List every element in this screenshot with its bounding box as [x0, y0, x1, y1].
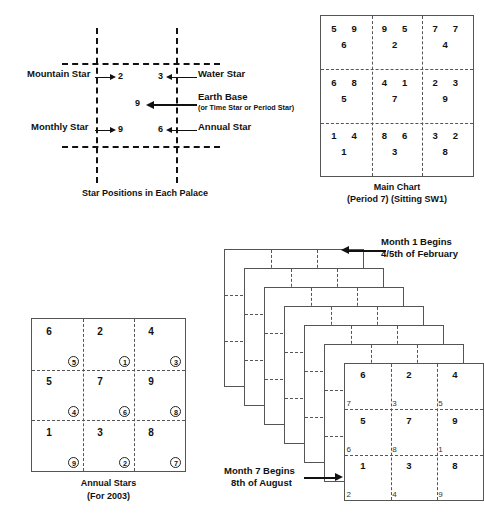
month7-cell: 7 8	[391, 409, 437, 454]
month7-arrowhead	[335, 473, 343, 481]
month7-cell: 3 4	[391, 455, 437, 500]
monthly-star-arrowhead	[110, 127, 116, 133]
month7-big-digit: 3	[406, 460, 411, 471]
month7-cell: 2 3	[391, 364, 437, 409]
annual-chart-caption-line1: Annual Stars	[31, 478, 186, 490]
water-star-digit: 1	[402, 77, 407, 88]
month7-cell: 9 1	[437, 409, 483, 454]
annual-chart-cell: 3 2	[83, 420, 134, 471]
palace-diagram-caption: Star Positions in Each Palace	[0, 188, 290, 200]
month7-small-digit: 1	[438, 445, 442, 454]
month7-big-digit: 8	[452, 460, 457, 471]
month1-arrowhead	[341, 246, 349, 254]
mountain-star-digit: 3	[432, 130, 437, 141]
month7-note-line1: Month 7 Begins	[224, 466, 295, 477]
annual-circled-digit: 3	[170, 356, 181, 367]
month7-cell: 1 2	[345, 455, 391, 500]
month7-big-digit: 4	[452, 369, 457, 380]
annual-circled-digit: 8	[170, 406, 181, 417]
annual-main-digit: 9	[148, 376, 154, 387]
annual-main-digit: 3	[97, 427, 103, 438]
month7-big-digit: 2	[406, 369, 411, 380]
annual-circled-digit: 7	[170, 457, 181, 468]
mountain-star-digit: 7	[432, 23, 437, 34]
base-star-digit: 3	[392, 146, 397, 157]
month7-small-digit: 9	[438, 490, 442, 499]
month7-small-digit: 3	[392, 399, 396, 408]
main-chart-cell: 3 2 8	[422, 123, 473, 176]
mountain-star-arrowhead	[110, 74, 116, 80]
annual-chart-cell: 1 9	[32, 420, 83, 471]
annual-circled-digit: 9	[68, 457, 79, 468]
month7-small-digit: 8	[392, 445, 396, 454]
annual-main-digit: 8	[148, 427, 154, 438]
month7-small-digit: 6	[346, 445, 350, 454]
earth-base-sublabel: (or Time Star or Period Star)	[198, 104, 294, 112]
base-star-digit: 6	[341, 39, 346, 50]
annual-main-digit: 2	[97, 326, 103, 337]
month7-small-digit: 5	[438, 399, 442, 408]
mountain-star-label: Mountain Star	[27, 69, 90, 80]
annual-circled-digit: 5	[68, 356, 79, 367]
base-star-digit: 9	[443, 93, 448, 104]
annual-chart-cell: 6 5	[32, 319, 83, 370]
base-star-digit: 5	[341, 93, 346, 104]
annual-star-arrow-line	[171, 130, 197, 131]
water-star-arrow-line	[171, 77, 197, 78]
base-star-digit: 7	[392, 93, 397, 104]
main-chart-cell: 6 8 5	[321, 69, 372, 122]
month1-note-line1: Month 1 Begins	[381, 237, 452, 248]
mountain-star-digit: 8	[382, 130, 387, 141]
annual-circled-digit: 1	[119, 356, 130, 367]
main-chart-cell: 4 1 7	[372, 69, 423, 122]
base-star-digit: 8	[443, 146, 448, 157]
water-star-digit: 3	[453, 77, 458, 88]
month1-note-line2: 4/5th of February	[381, 249, 458, 260]
month7-small-digit: 4	[392, 490, 396, 499]
mountain-star-digit: 1	[331, 130, 336, 141]
month7-cell: 5 6	[345, 409, 391, 454]
annual-chart-cell: 7 6	[83, 370, 134, 421]
water-star-digit: 4	[351, 130, 356, 141]
palace-grid-vline-left	[96, 28, 98, 183]
month7-cell: 8 9	[437, 455, 483, 500]
month7-arrow-line	[304, 477, 337, 479]
water-star-digit: 6	[402, 130, 407, 141]
annual-main-digit: 7	[97, 376, 103, 387]
main-chart-cell: 9 5 2	[372, 16, 423, 69]
annual-main-digit: 1	[46, 427, 52, 438]
annual-main-digit: 6	[46, 326, 52, 337]
annual-main-digit: 4	[148, 326, 154, 337]
main-chart-cell: 8 6 3	[372, 123, 423, 176]
annual-main-digit: 5	[46, 376, 52, 387]
month-sheet-7-front: 6 7 2 3 4 5 5 6 7 8 9 1 1 2 3 4	[344, 363, 484, 501]
main-chart-cell: 5 9 6	[321, 16, 372, 69]
palace-diagram: Mountain Star 2 3 Water Star 9 Earth Bas…	[0, 0, 300, 215]
annual-chart-caption-line2: (For 2003)	[31, 491, 186, 503]
earth-base-value: 9	[135, 98, 140, 108]
month7-small-digit: 2	[346, 490, 350, 499]
mountain-star-digit: 6	[331, 77, 336, 88]
month7-big-digit: 5	[360, 415, 365, 426]
water-star-digit: 9	[351, 23, 356, 34]
mountain-star-digit: 9	[382, 23, 387, 34]
base-star-digit: 1	[341, 146, 346, 157]
base-star-digit: 4	[443, 39, 448, 50]
annual-circled-digit: 6	[119, 406, 130, 417]
main-chart-caption-line1: Main Chart	[320, 182, 474, 194]
month7-big-digit: 7	[406, 415, 411, 426]
palace-grid-hline-top	[62, 63, 220, 65]
mountain-star-digit: 4	[382, 77, 387, 88]
main-chart-caption-line2: (Period 7) (Sitting SW1)	[310, 194, 484, 206]
water-star-digit: 2	[453, 130, 458, 141]
monthly-star-label: Monthly Star	[31, 122, 89, 133]
water-star-value: 3	[158, 71, 163, 81]
annual-star-value: 6	[158, 124, 163, 134]
water-star-label: Water Star	[198, 69, 245, 80]
annual-circled-digit: 4	[68, 406, 79, 417]
month7-cell: 4 5	[437, 364, 483, 409]
annual-chart-cell: 9 8	[134, 370, 185, 421]
annual-chart-cell: 4 3	[134, 319, 185, 370]
base-star-digit: 2	[392, 39, 397, 50]
water-star-digit: 8	[351, 77, 356, 88]
